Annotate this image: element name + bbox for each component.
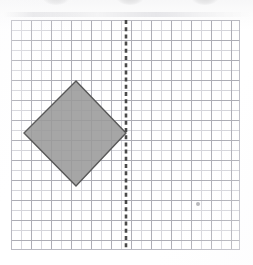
scan-veil [0,0,253,265]
worksheet-figure [0,0,253,265]
